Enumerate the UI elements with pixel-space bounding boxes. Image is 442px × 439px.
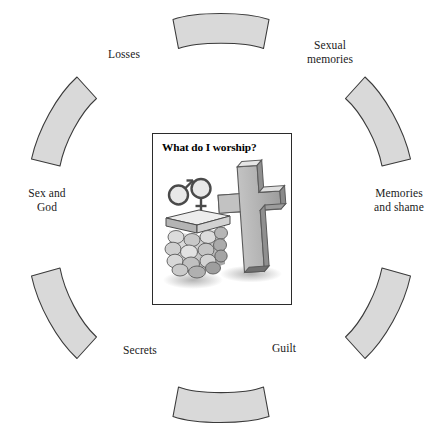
female-symbol-icon bbox=[192, 179, 211, 212]
ring-segment-top bbox=[173, 14, 269, 49]
ring-segment-bottom bbox=[173, 387, 269, 423]
center-card-title: What do I worship? bbox=[162, 141, 257, 153]
ring-label-losses: Losses bbox=[84, 47, 164, 61]
ring-segment-upper-right bbox=[346, 77, 411, 166]
male-symbol-icon bbox=[169, 181, 193, 205]
worship-circle-diagram: Losses Sexual memories Memories and sham… bbox=[0, 0, 442, 439]
stone-altar-icon bbox=[165, 210, 230, 278]
ring-label-guilt: Guilt bbox=[254, 341, 314, 355]
ring-label-sexual-memories: Sexual memories bbox=[283, 38, 377, 66]
ring-segment-lower-right bbox=[346, 268, 411, 359]
altar-and-cross-illustration bbox=[153, 156, 291, 304]
ring-label-secrets: Secrets bbox=[104, 343, 176, 357]
ring-segment-upper-left bbox=[32, 77, 97, 166]
ring-label-memories-and-shame: Memories and shame bbox=[356, 186, 442, 214]
ring-label-sex-and-god: Sex and God bbox=[6, 186, 88, 214]
center-card: What do I worship? bbox=[152, 133, 292, 305]
ring-segment-lower-left bbox=[32, 268, 97, 359]
